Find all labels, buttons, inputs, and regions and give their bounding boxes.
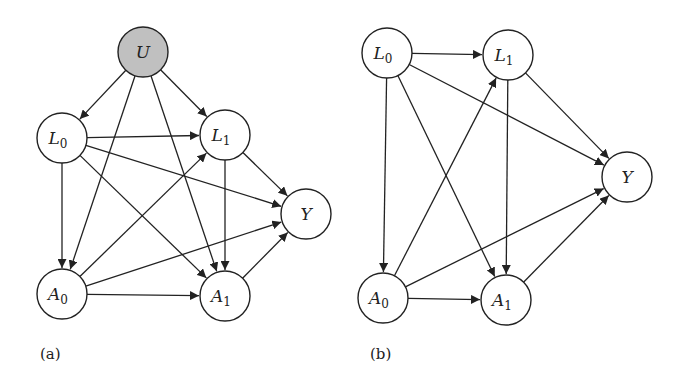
edge-a1-to-y (243, 232, 288, 278)
edge-u-to-l0 (80, 70, 126, 119)
edge-a0-to-l1 (394, 78, 496, 276)
edge-l1-to-y (243, 152, 287, 195)
node-label: U (136, 42, 151, 62)
panel-label-a: (a) (40, 345, 61, 363)
edge-a0-to-a1 (408, 298, 480, 299)
node-l0: L0 (37, 113, 87, 163)
edge-u-to-l1 (161, 70, 207, 117)
node-y: Y (602, 152, 652, 202)
edge-a1-to-y (524, 196, 609, 283)
edge-l1-to-a1 (506, 80, 508, 274)
edge-a0-to-a1 (87, 294, 199, 295)
panel-b-nodes: L0L1YA0A1 (358, 28, 652, 325)
panel-a-edges (62, 70, 288, 296)
node-u: U (118, 27, 168, 77)
edge-a0-to-y (86, 222, 282, 286)
node-a0: A0 (358, 273, 408, 323)
node-a1: A1 (200, 271, 250, 321)
node-a0: A0 (37, 269, 87, 319)
edge-a0-to-y (405, 189, 603, 287)
edge-l0-to-l1 (87, 135, 199, 137)
node-label: Y (621, 167, 634, 187)
edge-l0-to-a0 (383, 78, 386, 272)
node-y: Y (281, 189, 331, 239)
edge-a0-to-l1 (80, 153, 206, 276)
node-l1: L1 (200, 110, 250, 160)
edge-u-to-a1 (151, 76, 217, 272)
node-label: Y (300, 204, 313, 224)
panel-b-edges (383, 53, 608, 299)
causal-dag-figure: UL0L1YA0A1 L0L1YA0A1 (0, 0, 687, 386)
node-l1: L1 (483, 30, 533, 80)
node-a1: A1 (481, 275, 531, 325)
edge-u-to-a0 (70, 76, 135, 270)
panel-label-b: (b) (370, 345, 391, 363)
node-l0: L0 (362, 28, 412, 78)
edge-l0-to-a1 (80, 155, 206, 278)
edge-l0-to-l1 (412, 53, 482, 54)
